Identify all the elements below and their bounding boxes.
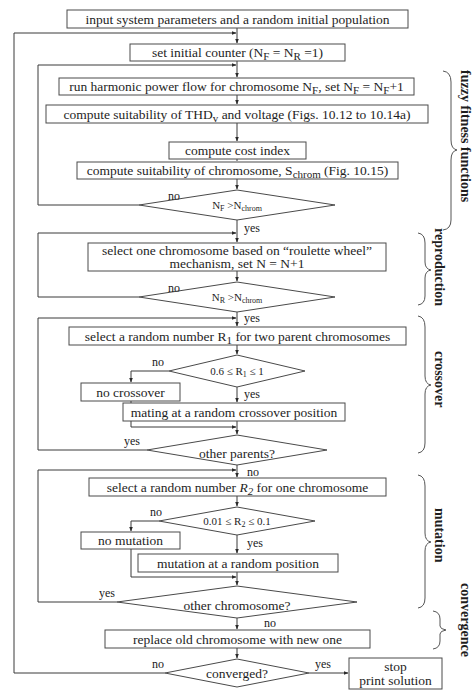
label-nr-yes: yes [244, 311, 260, 325]
decision-other-chromosome-text: other chromosome? [184, 598, 291, 613]
section-label-convergence: convergence [458, 583, 473, 657]
section-label-reproduction: reproduction [432, 228, 447, 306]
decision-other-parents-text: other parents? [199, 446, 275, 461]
box-roulette: select one chromosome based on “roulette… [88, 243, 386, 271]
label-r2-yes: yes [247, 536, 263, 550]
label-nf-no: no [168, 189, 180, 203]
box-select-r2-text: select a random number R2 for one chromo… [107, 480, 369, 497]
box-no-crossover-text: no crossover [96, 385, 165, 400]
label-converged-no: no [152, 657, 164, 671]
box-cost-index: compute cost index [169, 142, 306, 159]
decision-converged: converged? [165, 659, 309, 687]
label-converged-yes: yes [315, 657, 331, 671]
box-replace: replace old chromosome with new one [105, 630, 370, 648]
box-stop: stop print solution [349, 658, 442, 689]
decision-converged-text: converged? [206, 666, 268, 681]
box-input: input system parameters and a random ini… [67, 10, 408, 28]
label-parents-yes: yes [124, 434, 140, 448]
section-labels: fuzzy fitness functions reproduction cro… [432, 70, 473, 657]
box-cost-index-text: compute cost index [185, 143, 290, 158]
box-suitability-chromosome: compute suitability of chromosome, Schro… [77, 162, 398, 180]
box-no-mutation: no mutation [81, 532, 180, 549]
section-label-mutation: mutation [432, 508, 447, 563]
box-no-crossover: no crossover [81, 383, 180, 401]
box-run-power-flow: run harmonic power flow for chromosome N… [59, 78, 414, 96]
box-roulette-line2: mechanism, set N = N+1 [170, 256, 305, 271]
box-input-text: input system parameters and a random ini… [85, 12, 389, 27]
decision-r2-text: 0.01 ≤ R2 ≤ 0.1 [203, 515, 270, 529]
decision-r1-text: 0.6 ≤ R1 ≤ 1 [210, 365, 264, 379]
brace-reproduction [418, 233, 431, 305]
box-select-r2: select a random number R2 for one chromo… [89, 478, 386, 497]
label-nf-yes: yes [244, 221, 260, 235]
box-mutation-text: mutation at a random position [157, 556, 319, 571]
decision-r1: 0.6 ≤ R1 ≤ 1 [169, 355, 305, 387]
box-stop-line2: print solution [359, 673, 432, 688]
decision-r2: 0.01 ≤ R2 ≤ 0.1 [159, 507, 315, 535]
decision-other-chromosome: other chromosome? [117, 586, 357, 618]
brace-convergence [433, 611, 446, 649]
box-mating: mating at a random crossover position [123, 403, 345, 421]
box-no-mutation-text: no mutation [98, 533, 163, 548]
box-select-r1-text: select a random number R1 for two parent… [85, 329, 390, 346]
box-init-counter: set initial counter (NF = NR =1) [130, 44, 345, 62]
box-select-r1: select a random number R1 for two parent… [69, 327, 406, 346]
decision-other-parents: other parents? [147, 435, 327, 465]
section-label-fuzzy: fuzzy fitness functions [458, 70, 473, 203]
label-chromosome-yes: yes [99, 586, 115, 600]
label-r1-yes: yes [244, 387, 260, 401]
box-mating-text: mating at a random crossover position [131, 405, 338, 420]
box-stop-line1: stop [384, 659, 407, 674]
box-suitability-thd: compute suitability of THDv and voltage … [46, 105, 428, 124]
flowchart: input system parameters and a random ini… [0, 0, 475, 697]
box-suitability-thd-text: compute suitability of THDv and voltage … [63, 107, 410, 124]
box-replace-text: replace old chromosome with new one [133, 632, 342, 647]
brace-crossover [418, 316, 431, 453]
box-mutation: mutation at a random position [138, 554, 338, 572]
section-label-crossover: crossover [432, 351, 447, 408]
connectors [14, 28, 348, 673]
label-r1-no: no [152, 355, 164, 369]
label-chromosome-no: no [264, 616, 276, 630]
label-parents-no: no [247, 465, 259, 479]
brace-fuzzy [443, 71, 457, 230]
label-r2-no: no [150, 505, 162, 519]
label-nr-no: no [168, 281, 180, 295]
box-suitability-chromosome-text: compute suitability of chromosome, Schro… [87, 163, 388, 180]
brace-mutation [418, 475, 431, 608]
